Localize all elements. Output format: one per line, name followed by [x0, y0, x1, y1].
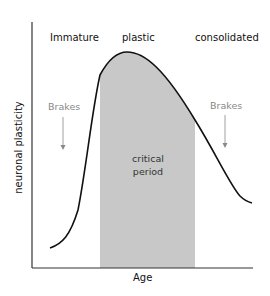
diagram-graphic: [0, 0, 270, 296]
y-axis-label: neuronal plasticity: [13, 98, 24, 198]
phase-label-plastic: plastic: [122, 32, 155, 43]
plasticity-diagram: Immature plastic consolidated Brakes Bra…: [0, 0, 270, 296]
brakes-label-right: Brakes: [210, 100, 242, 111]
critical-period-line1: critical: [120, 152, 176, 165]
brakes-left-arrow-icon: [61, 117, 66, 150]
brakes-label-left: Brakes: [48, 101, 80, 112]
phase-label-immature: Immature: [50, 32, 99, 43]
critical-period-line2: period: [120, 165, 176, 178]
phase-label-consolidated: consolidated: [195, 32, 259, 43]
x-axis-label: Age: [133, 272, 152, 283]
critical-period-label: critical period: [120, 152, 176, 178]
brakes-right-arrow-icon: [223, 115, 228, 148]
